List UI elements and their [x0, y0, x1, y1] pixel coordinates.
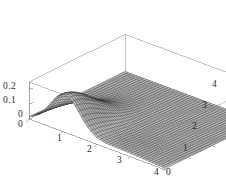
y-tick-label-1: 1: [183, 144, 188, 154]
surface-plot-canvas: [0, 0, 226, 191]
x-tick-label-2: 2: [87, 145, 92, 155]
surface-plot-figure: 0.20.10 01234 01234: [0, 0, 226, 191]
x-tick-label-4: 4: [154, 168, 159, 178]
z-tick-label-0: 0.2: [3, 82, 16, 92]
z-tick-label-1: 0.1: [3, 96, 16, 106]
x-tick-label-3: 3: [117, 156, 122, 166]
x-tick-label-1: 1: [57, 134, 62, 144]
y-tick-label-0: 0: [166, 168, 171, 178]
y-tick-label-3: 3: [202, 101, 207, 111]
y-tick-label-4: 4: [212, 80, 217, 90]
y-tick-label-2: 2: [192, 122, 197, 132]
x-tick-label-0: 0: [18, 120, 23, 130]
